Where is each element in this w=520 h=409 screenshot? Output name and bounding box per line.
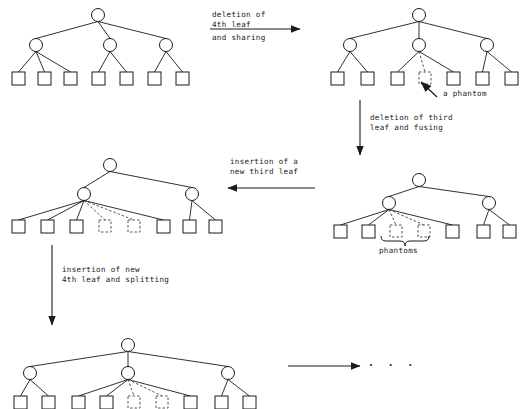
leaf-node-3[interactable] [100, 396, 113, 409]
edge-root-to-internal-2 [128, 352, 228, 367]
leaf-node-2[interactable] [72, 396, 85, 409]
internal-node-1[interactable] [413, 39, 426, 52]
internal-node-1[interactable] [104, 39, 117, 52]
phantom-leaf-5[interactable] [156, 396, 168, 408]
leaf-node-0[interactable] [334, 225, 347, 238]
internal-node-0[interactable] [30, 39, 43, 52]
arrow-1-label-below: and sharing [212, 33, 266, 43]
leaf-node-1[interactable] [38, 72, 51, 85]
internal-node-1[interactable] [186, 188, 199, 201]
arrow-2-label-above: deletion of third leaf and fusing [370, 113, 453, 132]
leaf-node-6[interactable] [184, 396, 197, 409]
internal-node-2[interactable] [222, 367, 235, 380]
phantom-leaf-3[interactable] [99, 220, 111, 232]
tree-after-splitting [14, 339, 256, 409]
initial-tree [12, 9, 189, 86]
edge-internal-to-leaf-2 [398, 52, 420, 73]
internal-node-0[interactable] [344, 39, 357, 52]
edge-internal-to-leaf-4 [389, 210, 453, 226]
leaf-node-6[interactable] [505, 72, 518, 85]
trees-layer [12, 9, 518, 409]
edge-internal-to-leaf-8 [228, 380, 250, 397]
leaf-node-8[interactable] [243, 396, 256, 409]
root-node[interactable] [413, 9, 426, 22]
edge-internal-to-leaf-0 [341, 210, 390, 226]
leaf-node-4[interactable] [120, 72, 133, 85]
edge-root-to-internal-0 [84, 172, 110, 188]
edge-internal-to-leaf-4 [110, 52, 127, 73]
internal-node-0[interactable] [78, 188, 91, 201]
leaf-node-6[interactable] [183, 220, 196, 233]
internal-node-0[interactable] [383, 197, 396, 210]
phantom-leaf-3[interactable] [419, 72, 431, 84]
leaf-node-1[interactable] [41, 220, 54, 233]
edge-internal-to-leaf-1 [369, 210, 390, 226]
leaf-node-1[interactable] [362, 225, 375, 238]
phantom-pointer-arrow [421, 82, 437, 97]
leaf-node-4[interactable] [447, 72, 460, 85]
internal-node-2[interactable] [160, 39, 173, 52]
tree-after-deletion-and-sharing [331, 9, 518, 86]
edge-root-to-internal-1 [110, 172, 192, 188]
leaf-node-2[interactable] [64, 72, 77, 85]
leaf-node-3[interactable] [92, 72, 105, 85]
phantom-leaf-4[interactable] [128, 220, 140, 232]
internal-node-1[interactable] [122, 367, 135, 380]
leaf-node-6[interactable] [503, 225, 516, 238]
tree-after-third-leaf-insertion [12, 159, 222, 234]
internal-node-2[interactable] [481, 39, 494, 52]
edge-internal-to-leaf-6 [128, 380, 191, 397]
root-node[interactable] [122, 339, 135, 352]
root-node[interactable] [104, 159, 117, 172]
edge-internal-to-leaf-6 [489, 210, 510, 226]
leaf-node-1[interactable] [42, 396, 55, 409]
edge-internal-to-leaf-1 [48, 201, 85, 221]
edge-internal-to-leaf-0 [19, 52, 37, 73]
edge-internal-to-leaf-4 [84, 201, 134, 221]
leaf-node-5[interactable] [148, 72, 161, 85]
edge-internal-to-leaf-5 [483, 52, 488, 73]
phantom-leaf-4[interactable] [128, 396, 140, 408]
leaf-node-1[interactable] [361, 72, 374, 85]
internal-node-0[interactable] [24, 367, 37, 380]
root-node[interactable] [413, 174, 426, 187]
leaf-node-5[interactable] [477, 225, 490, 238]
edge-internal-to-leaf-5 [484, 210, 490, 226]
phantoms-label: phantoms [379, 246, 418, 256]
edge-internal-to-leaf-1 [30, 380, 49, 397]
edge-root-to-internal-0 [36, 22, 98, 39]
leaf-node-0[interactable] [14, 396, 27, 409]
leaf-node-7[interactable] [209, 220, 222, 233]
arrow-4-label-above: insertion of new 4th leaf and splitting [62, 265, 169, 284]
edge-internal-to-leaf-3 [389, 210, 424, 226]
leaf-node-2[interactable] [70, 220, 83, 233]
leaf-node-0[interactable] [12, 220, 25, 233]
edge-root-to-internal-0 [389, 187, 419, 197]
diagram-canvas: deletion of 4th leaf and sharing deletio… [0, 0, 520, 409]
tree-diagram-svg [0, 0, 520, 409]
leaf-node-0[interactable] [331, 72, 344, 85]
callouts-layer [381, 82, 437, 246]
edge-internal-to-leaf-0 [338, 52, 351, 73]
edge-root-to-internal-0 [350, 22, 419, 39]
leaf-node-5[interactable] [476, 72, 489, 85]
leaf-node-0[interactable] [12, 72, 25, 85]
ellipsis-label: · · · [367, 357, 416, 372]
internal-node-1[interactable] [483, 197, 496, 210]
phantom-leaf-3[interactable] [418, 225, 430, 237]
edge-root-to-internal-2 [419, 22, 487, 39]
leaf-node-2[interactable] [391, 72, 404, 85]
leaf-node-6[interactable] [176, 72, 189, 85]
edge-internal-to-leaf-6 [190, 201, 193, 221]
root-node[interactable] [92, 9, 105, 22]
leaf-node-4[interactable] [446, 225, 459, 238]
edge-root-to-internal-1 [419, 187, 489, 197]
leaf-node-5[interactable] [157, 220, 170, 233]
leaf-node-7[interactable] [215, 396, 228, 409]
edge-internal-to-leaf-6 [487, 52, 512, 73]
edge-internal-to-leaf-1 [350, 52, 368, 73]
phantom-leaf-2[interactable] [390, 225, 402, 237]
edge-root-to-internal-0 [30, 352, 128, 367]
edge-internal-to-leaf-1 [36, 52, 45, 73]
edge-internal-to-leaf-5 [84, 201, 164, 221]
